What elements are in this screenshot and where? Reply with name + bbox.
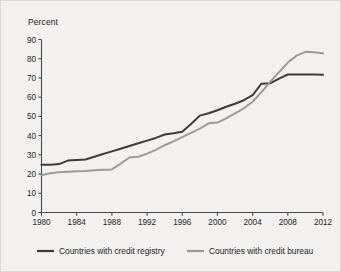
- y-tick-label: 50: [27, 112, 37, 121]
- x-tick-label: 1996: [173, 218, 192, 227]
- series-line: [42, 74, 324, 164]
- y-tick-label: 10: [27, 189, 37, 198]
- x-tick-label: 2004: [244, 218, 263, 227]
- y-tick-label: 20: [27, 170, 37, 179]
- axis-spine: [42, 40, 324, 213]
- x-tick-label: 1988: [103, 218, 122, 227]
- line-chart: 0102030405060708090 19801984198819921996…: [1, 1, 341, 272]
- y-tick-label: 90: [27, 36, 37, 45]
- x-tick-label: 1980: [32, 218, 51, 227]
- x-axis-ticks: 198019841988199219962000200420082012: [32, 213, 332, 228]
- y-tick-label: 80: [27, 55, 37, 64]
- x-tick-label: 1992: [138, 218, 157, 227]
- y-tick-label: 40: [27, 132, 37, 141]
- data-series-group: [42, 52, 324, 175]
- x-tick-label: 2008: [279, 218, 298, 227]
- y-tick-label: 70: [27, 74, 37, 83]
- y-tick-label: 60: [27, 93, 37, 102]
- legend-label: Countries with credit bureau: [209, 246, 314, 256]
- chart-figure: Percent 0102030405060708090 198019841988…: [0, 0, 341, 272]
- y-axis-title: Percent: [28, 17, 58, 27]
- y-tick-label: 30: [27, 151, 37, 160]
- plot-area: Percent 0102030405060708090 198019841988…: [1, 1, 341, 272]
- series-line: [42, 52, 324, 175]
- y-axis-ticks: 0102030405060708090: [27, 36, 42, 218]
- x-tick-label: 1984: [68, 218, 87, 227]
- legend-label: Countries with credit registry: [59, 246, 165, 256]
- y-tick-label: 0: [31, 209, 36, 218]
- axis-spines: [42, 40, 324, 213]
- x-tick-label: 2012: [314, 218, 333, 227]
- x-tick-label: 2000: [208, 218, 227, 227]
- chart-legend: Countries with credit registryCountries …: [37, 246, 314, 256]
